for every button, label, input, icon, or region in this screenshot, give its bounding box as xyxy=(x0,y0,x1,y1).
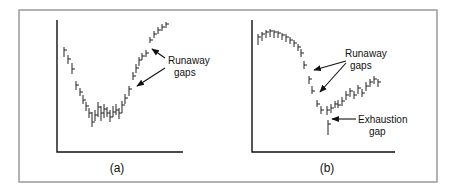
price-bar xyxy=(129,86,132,96)
panel-a-annotation-line1: Runaway xyxy=(168,55,210,66)
price-bar xyxy=(378,79,381,87)
price-bar xyxy=(321,106,324,114)
price-bar xyxy=(142,53,145,60)
price-bar xyxy=(266,30,269,38)
price-bar xyxy=(350,88,353,97)
price-bar xyxy=(150,37,153,43)
panel-a-arrow-upper xyxy=(152,49,165,58)
price-bar xyxy=(76,81,79,90)
price-bar xyxy=(158,27,161,34)
price-bar xyxy=(166,22,169,28)
price-bar xyxy=(317,100,320,107)
price-bar xyxy=(72,63,75,74)
price-bar xyxy=(294,40,297,47)
panel-b-exhaustion-line2: gap xyxy=(369,126,386,137)
price-bar xyxy=(64,47,67,57)
price-bar xyxy=(338,100,341,108)
panel-a-arrow-lower xyxy=(137,68,165,86)
price-bar xyxy=(374,76,377,84)
price-bar xyxy=(125,94,128,104)
price-bar xyxy=(301,49,304,57)
price-bar xyxy=(358,85,361,94)
panel-a-caption: (a) xyxy=(110,161,125,175)
panel-b-runaway-line2: gaps xyxy=(350,60,372,71)
price-bar xyxy=(354,91,357,99)
figure: Runaway gaps (a) Runaway gaps Exhaustion… xyxy=(0,0,456,195)
panel-a-annotation-line2: gaps xyxy=(174,67,196,78)
price-bar xyxy=(282,33,285,40)
price-bar xyxy=(346,91,349,100)
price-bar xyxy=(154,31,157,38)
price-bar xyxy=(278,31,281,38)
price-bar xyxy=(68,55,71,64)
price-bar xyxy=(309,76,312,84)
panel-b: Runaway gaps Exhaustion gap (b) xyxy=(252,20,407,175)
price-bar xyxy=(286,34,289,42)
price-bar xyxy=(312,86,315,94)
price-bar xyxy=(274,30,277,38)
price-bar xyxy=(342,97,345,106)
price-bar xyxy=(262,32,265,41)
price-bar xyxy=(362,89,365,97)
price-bar xyxy=(162,24,165,31)
price-bar xyxy=(366,82,369,91)
price-bar xyxy=(331,104,334,113)
panel-b-runaway-line1: Runaway xyxy=(345,48,387,59)
price-bar xyxy=(133,72,136,80)
price-bar xyxy=(258,34,261,45)
panel-b-caption: (b) xyxy=(320,161,335,175)
price-bar xyxy=(80,88,83,96)
panel-a: Runaway gaps (a) xyxy=(57,20,210,175)
figure-frame xyxy=(19,10,437,182)
price-bar xyxy=(327,106,330,115)
price-bar xyxy=(370,79,373,87)
price-bar xyxy=(146,50,149,57)
panel-b-exhaustion-line1: Exhaustion xyxy=(358,114,407,125)
price-bar xyxy=(328,120,331,135)
price-bar xyxy=(290,37,293,44)
panel-a-price-bars xyxy=(64,22,169,127)
price-bar xyxy=(270,29,273,37)
price-bar xyxy=(304,61,307,69)
